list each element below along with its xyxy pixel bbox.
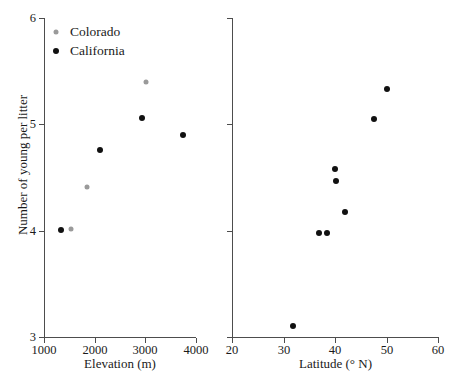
- data-point-california: [333, 178, 339, 184]
- data-point-california: [139, 115, 145, 121]
- data-point-california: [371, 116, 377, 122]
- legend-label-colorado: Colorado: [70, 25, 120, 39]
- data-point-colorado: [143, 79, 148, 84]
- data-point-california: [324, 230, 330, 236]
- scatter-plot-figure: 3456 1000200030004000 Number of young pe…: [0, 0, 457, 378]
- data-point-california: [180, 132, 186, 138]
- legend-marker-colorado-icon: [54, 29, 59, 34]
- data-points-latitude: [222, 0, 457, 378]
- data-point-california: [290, 323, 296, 329]
- data-point-california: [316, 230, 322, 236]
- data-point-california: [332, 166, 338, 172]
- panel-elevation: 3456 1000200030004000 Number of young pe…: [0, 0, 222, 378]
- data-point-colorado: [68, 226, 73, 231]
- data-point-california: [342, 209, 348, 215]
- data-point-california: [384, 86, 390, 92]
- data-point-california: [58, 227, 64, 233]
- legend-label-california: California: [70, 44, 125, 58]
- panel-latitude: 2030405060 Latitude (° N): [222, 0, 457, 378]
- data-point-colorado: [84, 185, 89, 190]
- data-point-california: [97, 147, 103, 153]
- legend-marker-california-icon: [53, 48, 59, 54]
